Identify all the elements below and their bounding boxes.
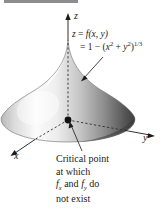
z-axis-label: z — [74, 10, 78, 22]
annotation-line-1: Critical point — [56, 153, 109, 166]
equation-outer-exponent: 1/3 — [134, 40, 142, 47]
figure-container: FIGURE 13.66 — [0, 0, 165, 209]
x-axis-label: x — [14, 150, 18, 162]
y-axis-label: y — [143, 132, 147, 144]
annotation-and: and — [62, 178, 81, 189]
equation-rhs-start: = 1 − ( — [80, 42, 106, 52]
z-axis-arrowhead — [65, 13, 70, 20]
surface-cusp-body — [1, 40, 135, 142]
equation-plus: + — [113, 42, 123, 52]
annotation-do: do — [87, 178, 100, 189]
equation-leader-line — [84, 57, 103, 78]
equation-line-1: z = f(x, y) — [72, 29, 142, 40]
annotation-line-2: at which — [56, 166, 109, 179]
surface-equation: z = f(x, y) = 1 − (x2 + y2)1/3 — [72, 29, 142, 54]
equation-equals: = — [76, 29, 86, 39]
critical-point-dot — [65, 117, 72, 124]
annotation-line-3: fx and fy do — [56, 178, 109, 192]
critical-point-annotation: Critical point at which fx and fy do not… — [56, 153, 109, 205]
annotation-line-4: not exist — [56, 193, 109, 206]
y-axis-arrowhead — [147, 133, 155, 138]
equation-line-2: = 1 − (x2 + y2)1/3 — [72, 40, 142, 53]
equation-args: (x, y) — [88, 29, 108, 39]
